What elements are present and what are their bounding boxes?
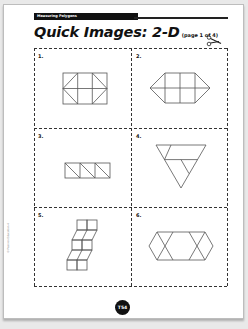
page-number-badge: T54 [115, 300, 130, 315]
figure-stepped-squares-rhombi [67, 220, 99, 270]
header-rule [134, 17, 228, 19]
page-title: Quick Images: 2-D(page 1 of 4) [34, 24, 218, 40]
card-number: 1. [38, 53, 43, 59]
figure-three-squares-diagonals [65, 163, 110, 178]
card-number: 3. [38, 133, 43, 139]
card-4: 4. [131, 128, 227, 207]
title-text: Quick Images: 2-D [34, 24, 180, 40]
worksheet-page: Measuring Polygons Quick Images: 2-D(pag… [3, 4, 244, 319]
figure-rectangle-with-triangles [63, 73, 107, 104]
cut-line-bottom [34, 286, 227, 287]
card-3: 3. [34, 128, 131, 207]
card-6: 6. [131, 207, 227, 286]
figure-elongated-hexagon-grid [150, 73, 210, 103]
scissors-icon [206, 35, 222, 47]
figure-inverted-triangle-subdivided [156, 145, 206, 188]
cards-grid: 1. 2. 3. [34, 48, 227, 286]
copyright-note: © Pearson Education 4 [7, 223, 10, 253]
card-number: 5. [38, 212, 43, 218]
unit-label: Measuring Polygons [34, 13, 138, 20]
card-2: 2. [131, 48, 227, 128]
figure-hexagon-with-crossed-ends [149, 232, 213, 260]
card-5: 5. [34, 207, 131, 286]
card-number: 6. [136, 212, 141, 218]
card-number: 2. [136, 53, 141, 59]
card-number: 4. [136, 133, 141, 139]
cut-line-right [227, 48, 228, 286]
card-1: 1. [34, 48, 131, 128]
